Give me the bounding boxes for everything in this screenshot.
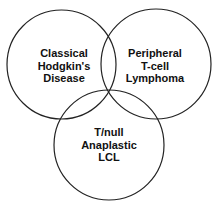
label-line: Anaplastic <box>69 139 149 152</box>
label-line: Disease <box>24 72 104 85</box>
label-line: LCL <box>69 151 149 164</box>
label-peripheral-tcell: Peripheral T-cell Lymphoma <box>115 47 195 85</box>
label-line: Classical <box>24 47 104 60</box>
label-line: Lymphoma <box>115 72 195 85</box>
label-classical-hodgkins: Classical Hodgkin's Disease <box>24 47 104 85</box>
label-line: Hodgkin's <box>24 60 104 73</box>
label-line: T/null <box>69 126 149 139</box>
venn-diagram <box>0 0 217 213</box>
label-line: Peripheral <box>115 47 195 60</box>
label-tnull-anaplastic: T/null Anaplastic LCL <box>69 126 149 164</box>
label-line: T-cell <box>115 60 195 73</box>
